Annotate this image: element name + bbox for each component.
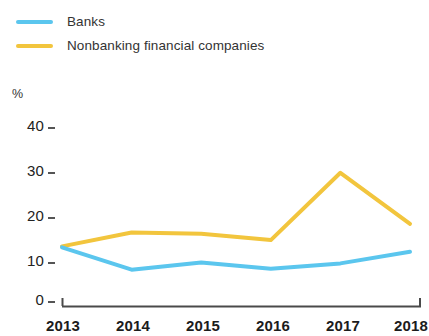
x-tick-label-2013: 2013 <box>33 318 93 333</box>
y-tick-dash-0 <box>48 301 55 303</box>
x-tick-label-2017: 2017 <box>313 318 373 333</box>
y-tick-dash-10 <box>48 262 55 264</box>
y-tick-label-40: 40 <box>10 118 44 133</box>
y-axis-unit-label: % <box>12 88 23 101</box>
x-tick-label-2015: 2015 <box>173 318 233 333</box>
x-tick-label-2014: 2014 <box>103 318 163 333</box>
y-tick-label-30: 30 <box>10 163 44 178</box>
plot-area: % 40 30 20 10 0 2013 2014 2015 2016 2017… <box>0 0 429 336</box>
x-tick-label-2016: 2016 <box>243 318 303 333</box>
plot-svg <box>0 0 429 336</box>
y-tick-label-20: 20 <box>10 208 44 223</box>
series-line-nonbanking-financial-companies <box>62 173 410 247</box>
x-tick-label-2018: 2018 <box>381 318 429 333</box>
y-tick-label-0: 0 <box>10 292 44 307</box>
y-tick-dash-40 <box>48 127 55 129</box>
y-tick-dash-20 <box>48 217 55 219</box>
y-tick-label-10: 10 <box>10 253 44 268</box>
series-line-banks <box>62 247 410 269</box>
y-tick-dash-30 <box>48 172 55 174</box>
line-chart-figure: Banks Nonbanking financial companies % 4… <box>0 0 429 336</box>
